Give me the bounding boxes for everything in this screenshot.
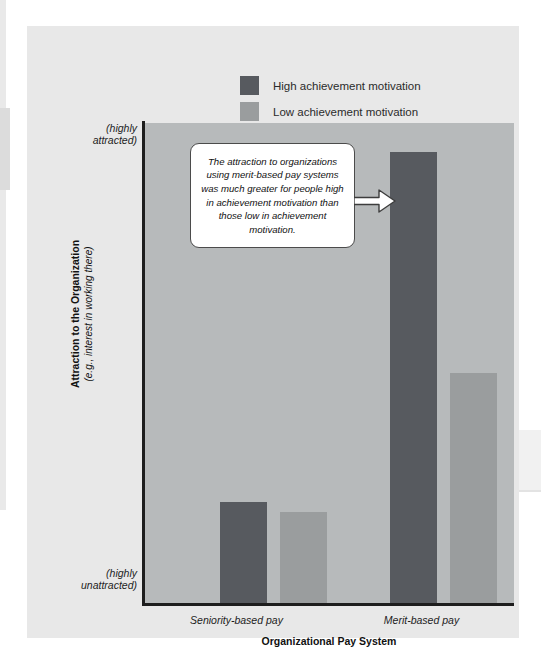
page-edge-artifact-left-bottom [0,190,6,510]
bar-seniority-based-pay-high [220,502,267,603]
y-axis-title-main: Attraction to the Organization [69,224,82,404]
figure-card: High achievement motivation Low achievem… [27,26,519,638]
legend-label-low: Low achievement motivation [273,106,418,118]
y-axis-title: Attraction to the Organization (e.g., in… [69,224,105,404]
legend-item-high: High achievement motivation [240,75,470,96]
y-axis-bottom-label-line2: unattracted) [63,579,137,591]
y-axis-bottom-label: (highly unattracted) [63,567,137,591]
page-edge-artifact-left-top [0,0,6,108]
page-edge-artifact-right-top [519,430,541,490]
figure-page: High achievement motivation Low achievem… [0,0,541,656]
y-axis-bottom-label-line1: (highly [63,567,137,579]
y-axis-title-subtitle: (e.g., interest in working there) [82,224,95,404]
y-axis-top-label-line2: attracted) [63,134,137,146]
legend-swatch-low-icon [240,102,259,121]
legend-label-high: High achievement motivation [273,80,421,92]
y-axis-top-label: (highly attracted) [63,122,137,146]
legend-item-low: Low achievement motivation [240,101,470,122]
bar-seniority-based-pay-low [280,512,327,603]
y-axis-top-label-line1: (highly [63,122,137,134]
x-axis-title: Organizational Pay System [144,635,514,647]
legend-swatch-high-icon [240,76,259,95]
bar-merit-based-pay-low [450,373,497,603]
chart-legend: High achievement motivation Low achievem… [240,75,470,127]
x-axis-category-label-1: Merit-based pay [329,614,514,626]
bar-merit-based-pay-high [390,152,437,603]
annotation-callout: The attraction to organizations using me… [190,143,355,248]
page-edge-artifact-left-mid [0,108,10,190]
annotation-callout-text: The attraction to organizations using me… [198,155,347,237]
annotation-arrow-icon [354,188,396,214]
x-axis-category-label-0: Seniority-based pay [144,614,329,626]
y-axis-line [142,121,145,605]
x-axis-line [142,603,514,606]
